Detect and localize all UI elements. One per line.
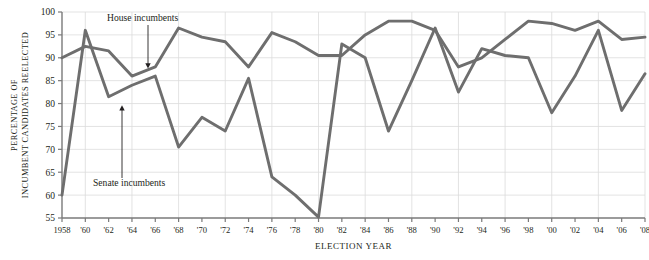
x-axis-tick-label: '96 (500, 225, 511, 235)
x-axis-tick-label: '66 (150, 225, 161, 235)
y-axis-tick-label: 70 (46, 145, 56, 155)
y-axis-tick-label: 75 (46, 122, 56, 132)
x-axis-tick-label: '62 (104, 225, 114, 235)
x-axis-tick-label: '76 (267, 225, 278, 235)
x-axis-tick-label: '04 (593, 225, 604, 235)
y-axis-tick-label: 100 (41, 7, 56, 17)
y-axis-tick-label: 65 (46, 168, 56, 178)
y-axis-title-line2: INCUMBENT CANDIDATES REELECTED (21, 32, 30, 198)
y-axis-title-line1: PERCENTAGE OF (10, 79, 19, 151)
x-axis-tick-label: '92 (453, 225, 463, 235)
x-axis-tick-label: '98 (523, 225, 533, 235)
x-axis-tick-label: '00 (547, 225, 557, 235)
x-axis-tick-label: '82 (337, 225, 347, 235)
y-axis-tick-label: 55 (46, 213, 56, 223)
x-axis-tick-label: '78 (290, 225, 300, 235)
x-axis-tick-label: '94 (477, 225, 488, 235)
annotation-label-senate: Senate incumbents (93, 177, 165, 188)
y-axis-tick-label: 60 (46, 191, 56, 201)
y-axis-tick-label: 95 (46, 30, 56, 40)
x-axis-tick-label: '86 (383, 225, 394, 235)
series-line-senate-incumbents (62, 28, 645, 217)
x-axis-tick-label: '64 (127, 225, 138, 235)
y-axis-tick-label: 80 (46, 99, 56, 109)
y-axis-tick-label: 85 (46, 76, 56, 86)
x-axis-tick-label: 1958 (53, 225, 70, 235)
x-axis-tick-label: '06 (617, 225, 628, 235)
x-axis-tick-label: '80 (313, 225, 323, 235)
election-incumbent-reelection-chart: 5560657075808590951001958'60'62'64'66'68… (0, 0, 649, 260)
x-axis-tick-label: '70 (197, 225, 207, 235)
x-axis-tick-label: '08 (640, 225, 649, 235)
x-axis-tick-label: '68 (174, 225, 184, 235)
x-axis-tick-label: '88 (407, 225, 417, 235)
x-axis-tick-label: '02 (570, 225, 580, 235)
annotation-label-house: House incumbents (107, 12, 178, 23)
x-axis-tick-label: '74 (243, 225, 254, 235)
y-axis-tick-label: 90 (46, 53, 56, 63)
x-axis-tick-label: '72 (220, 225, 230, 235)
series-line-house-incumbents (62, 21, 645, 76)
x-axis-tick-label: '84 (360, 225, 371, 235)
figure-caption (0, 251, 649, 260)
x-axis-title: ELECTION YEAR (315, 241, 392, 251)
chart-canvas: 5560657075808590951001958'60'62'64'66'68… (0, 0, 649, 260)
x-axis-tick-label: '60 (80, 225, 90, 235)
x-axis-tick-label: '90 (430, 225, 440, 235)
